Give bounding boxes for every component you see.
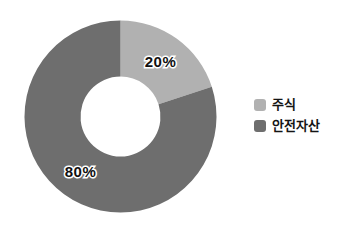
slice-value-label-stocks: 20%: [145, 53, 177, 70]
legend-swatch-icon-safe-assets: [254, 120, 266, 132]
chart-area: 20% 80% 주식 안전자산: [0, 0, 340, 238]
legend-item-stocks: 주식: [254, 98, 320, 111]
legend-item-safe-assets: 안전자산: [254, 119, 320, 132]
legend-label-stocks: 주식: [272, 98, 296, 111]
legend-swatch-icon-stocks: [254, 99, 266, 111]
legend: 주식 안전자산: [254, 98, 320, 132]
slice-value-label-safe-assets: 80%: [65, 163, 97, 180]
legend-label-safe-assets: 안전자산: [272, 119, 320, 132]
